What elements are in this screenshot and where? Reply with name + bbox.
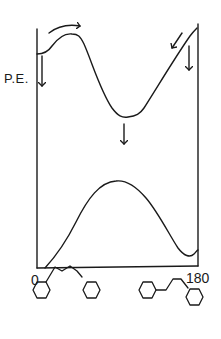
right-slope-arrow bbox=[172, 33, 182, 48]
upper-curve bbox=[37, 28, 197, 117]
extended-conformer-structure bbox=[33, 266, 100, 298]
y-axis-label: P.E. bbox=[4, 71, 29, 86]
diagram-canvas bbox=[0, 0, 221, 339]
x-tick-0: 0 bbox=[31, 272, 39, 288]
lower-curve bbox=[45, 181, 198, 268]
cyclohexane-ring-icon bbox=[186, 289, 203, 305]
baseline-axis bbox=[37, 266, 198, 268]
cyclohexane-ring-icon bbox=[83, 282, 100, 298]
cyclohexane-ring-icon bbox=[139, 282, 156, 298]
barrier-crossing-arrow bbox=[49, 25, 80, 33]
x-tick-180: 180 bbox=[186, 270, 209, 286]
alkyl-chain bbox=[156, 279, 188, 290]
